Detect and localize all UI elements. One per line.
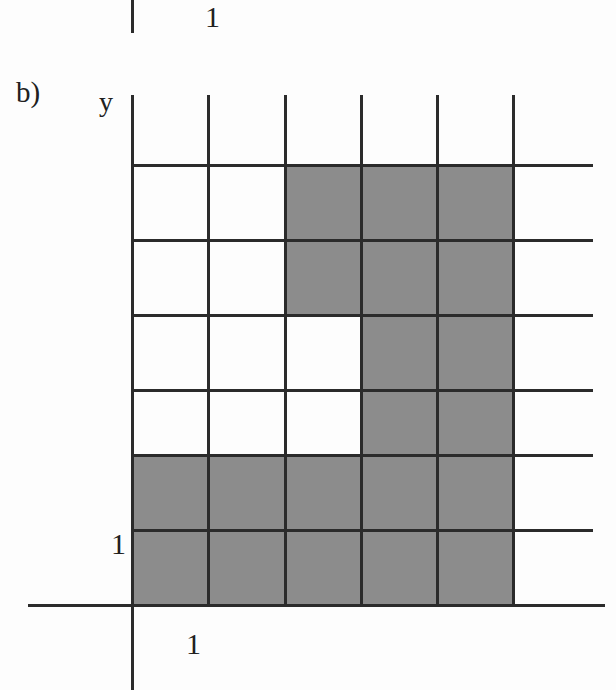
x-axis [28, 604, 605, 607]
grid-cell-r1-c4 [361, 165, 437, 240]
grid-hline-4 [132, 389, 593, 392]
top-axis-stub [131, 0, 134, 33]
grid-cell-r3-c5 [437, 315, 513, 390]
grid-cell-r6-c3 [285, 530, 361, 605]
grid-cell-r5-c2 [208, 455, 285, 530]
grid-cell-r3-c1 [132, 315, 208, 390]
grid-cell-r5-c3 [285, 455, 361, 530]
grid-cell-r4-c4 [361, 390, 437, 455]
grid-cell-r1-c1 [132, 165, 208, 240]
panel-label: b) [16, 78, 40, 107]
grid-cell-r5-c5 [437, 455, 513, 530]
grid-cell-r6-c5 [437, 530, 513, 605]
grid-cell-r4-c5 [437, 390, 513, 455]
grid-cell-r4-c3 [285, 390, 361, 455]
grid-hline-3 [132, 314, 593, 317]
grid-cell-r3-c4 [361, 315, 437, 390]
grid-cell-r1-c2 [208, 165, 285, 240]
grid-cell-r5-c1 [132, 455, 208, 530]
grid-cell-r6-c1 [132, 530, 208, 605]
grid-cell-r2-c5 [437, 240, 513, 315]
grid-cell-r1-c3 [285, 165, 361, 240]
grid-cell-r2-c2 [208, 240, 285, 315]
grid-cell-r5-c4 [361, 455, 437, 530]
grid-cell-r4-c2 [208, 390, 285, 455]
top-tick-label: 1 [205, 2, 220, 32]
grid-cell-r2-c3 [285, 240, 361, 315]
grid-hline-2 [132, 239, 593, 242]
grid-hline-5 [132, 454, 593, 457]
x-tick-label: 1 [186, 629, 201, 659]
grid-hline-6 [132, 529, 593, 532]
grid-cell-r6-c4 [361, 530, 437, 605]
y-tick-label: 1 [111, 529, 126, 559]
y-axis-label: y [99, 88, 113, 116]
figure-canvas: 1 b) y 1 1 [0, 0, 616, 690]
grid-cell-r6-c2 [208, 530, 285, 605]
grid-cell-r4-c1 [132, 390, 208, 455]
grid-cell-r2-c4 [361, 240, 437, 315]
grid-hline-1 [132, 164, 593, 167]
grid-cell-r3-c2 [208, 315, 285, 390]
grid-cell-r2-c1 [132, 240, 208, 315]
y-axis [131, 95, 134, 690]
grid-cell-r1-c5 [437, 165, 513, 240]
grid-cell-r3-c3 [285, 315, 361, 390]
